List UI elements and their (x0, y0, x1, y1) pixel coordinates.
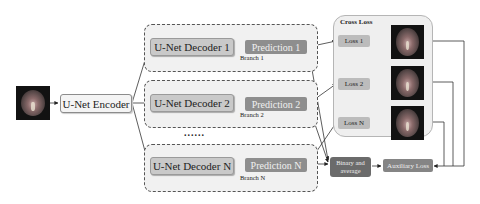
input-mri-image (16, 86, 50, 120)
unet-encoder-box: U-Net Encoder (60, 94, 132, 113)
prediction-1-box: Prediction 1 (245, 40, 307, 54)
encoder-label: U-Net Encoder (63, 98, 130, 110)
auxiliary-loss-box: Auxiliary Loss (383, 159, 433, 172)
more-branches-ellipsis: ...... (184, 127, 205, 138)
prediction-n-mri-image (391, 106, 424, 140)
prediction-2-box: Prediction 2 (245, 97, 307, 111)
loss-n-label: Loss N (344, 119, 364, 127)
prediction-1-label: Prediction 1 (252, 42, 301, 53)
decoder-1-label: U-Net Decoder 1 (154, 41, 230, 53)
prediction-2-mri-image (391, 66, 424, 100)
binary-average-box: Binary and average (330, 157, 371, 177)
auxiliary-loss-label: Auxiliary Loss (387, 162, 429, 170)
prediction-n-box: Prediction N (245, 158, 307, 172)
loss-1-box: Loss 1 (338, 35, 370, 47)
loss-2-box: Loss 2 (338, 78, 370, 90)
prediction-2-label: Prediction 2 (252, 99, 301, 110)
loss-2-label: Loss 2 (345, 80, 363, 88)
decoder-n-label: U-Net Decoder N (153, 160, 231, 172)
branch-1-label: Branch 1 (240, 54, 264, 61)
decoder-1-box: U-Net Decoder 1 (150, 38, 234, 56)
decoder-2-box: U-Net Decoder 2 (150, 94, 234, 112)
branch-n-label: Branch N (240, 174, 265, 181)
branch-2-label: Branch 2 (240, 111, 264, 118)
prediction-1-mri-image (391, 25, 424, 59)
loss-n-box: Loss N (338, 117, 370, 129)
decoder-n-box: U-Net Decoder N (150, 157, 234, 175)
decoder-2-label: U-Net Decoder 2 (154, 97, 230, 109)
binary-average-label: Binary and average (330, 159, 371, 175)
cross-loss-title: Cross Loss (340, 18, 372, 26)
prediction-n-label: Prediction N (251, 160, 302, 171)
loss-1-label: Loss 1 (345, 37, 363, 45)
